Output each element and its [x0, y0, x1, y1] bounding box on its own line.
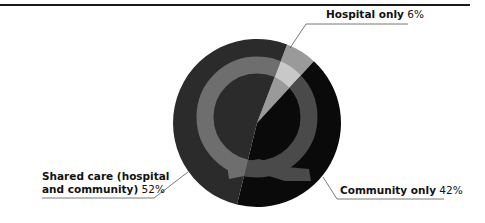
label-shared-name-line2: and community) [42, 183, 138, 195]
leader-line-hospital [290, 24, 408, 48]
label-shared-value: 52% [142, 183, 165, 195]
label-community-only: Community only 42% [340, 184, 463, 197]
label-hospital-name: Hospital only [326, 8, 404, 20]
label-hospital-value: 6% [407, 8, 424, 20]
label-community-name: Community only [340, 184, 436, 196]
label-community-value: 42% [439, 184, 462, 196]
label-shared-name-line1: Shared care (hospital [42, 170, 169, 182]
label-shared-care: Shared care (hospital and community) 52% [42, 170, 169, 196]
label-hospital-only: Hospital only 6% [326, 8, 424, 21]
